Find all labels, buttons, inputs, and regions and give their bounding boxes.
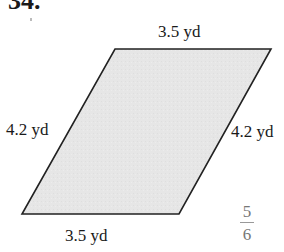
fraction-bar bbox=[240, 222, 254, 223]
top-side-label: 3.5 yd bbox=[158, 23, 201, 40]
left-side-label: 4.2 yd bbox=[6, 121, 49, 138]
fraction-numerator: 5 bbox=[240, 203, 254, 220]
page-marker-fraction: 5 6 bbox=[240, 203, 254, 243]
fraction-denominator: 6 bbox=[240, 226, 254, 243]
right-side-label: 4.2 yd bbox=[231, 123, 274, 140]
bottom-side-label: 3.5 yd bbox=[65, 227, 108, 244]
